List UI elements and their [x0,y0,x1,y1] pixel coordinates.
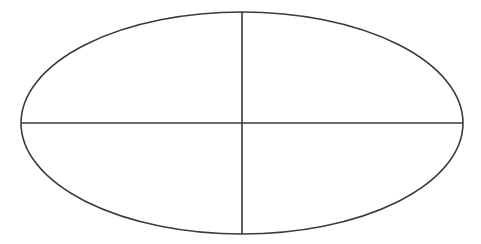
ellipse-quadrant-diagram [0,0,481,244]
diagram-canvas [0,0,481,244]
